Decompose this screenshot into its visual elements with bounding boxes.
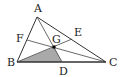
- label-e: E: [74, 26, 82, 39]
- label-f: F: [16, 32, 24, 45]
- label-d: D: [59, 65, 68, 77]
- label-b: B: [7, 56, 15, 69]
- label-c: C: [109, 56, 117, 69]
- label-g: G: [52, 33, 61, 46]
- label-a: A: [33, 2, 43, 15]
- geometry-diagram: A B C D E F G: [0, 0, 127, 77]
- triangle-figure: A B C D E F G: [0, 0, 127, 77]
